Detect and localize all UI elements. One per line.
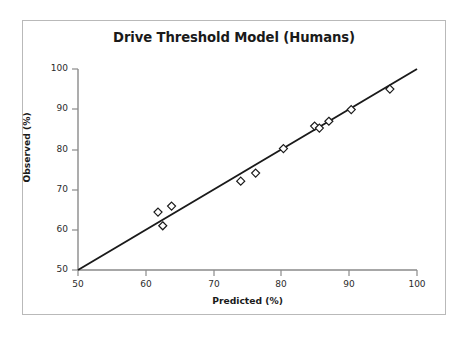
data-point-marker	[154, 208, 162, 216]
y-tick-label: 50	[44, 264, 68, 274]
x-tick-label: 90	[334, 279, 364, 289]
y-tick-label: 60	[44, 224, 68, 234]
y-tick-label: 100	[44, 63, 68, 73]
x-tick-label: 80	[266, 279, 296, 289]
identity-reference-line	[78, 69, 417, 270]
x-tick-label: 50	[63, 279, 93, 289]
y-tick-label: 80	[44, 144, 68, 154]
data-point-marker	[252, 169, 260, 177]
identity-line	[78, 69, 417, 270]
y-axis-label: Observed (%)	[21, 98, 32, 198]
y-tick-label: 70	[44, 184, 68, 194]
chart-figure: Drive Threshold Model (Humans) 100 90 80…	[0, 0, 468, 337]
x-tick-label: 100	[402, 279, 432, 289]
x-tick-label: 70	[199, 279, 229, 289]
data-point-marker	[325, 117, 333, 125]
y-tick-label: 90	[44, 103, 68, 113]
data-markers-group	[154, 85, 394, 230]
x-axis-label: Predicted (%)	[78, 295, 417, 306]
data-point-marker	[168, 202, 176, 210]
x-axis-ticks	[78, 270, 417, 276]
x-tick-label: 60	[131, 279, 161, 289]
y-axis-ticks	[72, 69, 78, 270]
data-point-marker	[159, 222, 167, 230]
data-point-marker	[237, 177, 245, 185]
